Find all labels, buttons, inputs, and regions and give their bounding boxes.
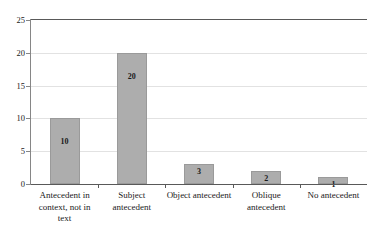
bar-value-label: 20 [117,73,147,81]
x-axis-category-label: No antecedent [300,190,367,202]
y-axis-line [30,19,31,185]
bar-value-label: 3 [184,168,214,176]
x-axis-tick-mark [233,184,234,188]
y-axis-tick-label: 0 [21,180,25,189]
x-axis-category-label: Oblique antecedent [233,190,300,213]
gridline [31,151,367,152]
plot-area: 1020321 [31,20,367,184]
x-axis-tick-mark [98,184,99,188]
x-axis-category-label: Subject antecedent [98,190,165,213]
x-axis-category-label: Antecedent in context, not in text [31,190,98,225]
bar [50,118,80,184]
x-axis-category-label: Object antecedent [165,190,232,202]
x-axis-tick-mark [300,184,301,188]
x-axis-tick-mark [165,184,166,188]
y-axis-tick-label: 10 [17,114,26,123]
bar-value-label: 10 [50,138,80,146]
gridline [31,53,367,54]
y-axis-tick-label: 5 [21,147,25,156]
gridline [31,86,367,87]
y-axis-tick-label: 25 [17,16,26,25]
x-axis-line [31,184,367,185]
y-axis-tick-label: 15 [17,81,26,90]
plot-top-border [31,19,367,20]
bar-value-label: 1 [318,181,348,189]
bar-value-label: 2 [251,175,281,183]
y-axis-tick-label: 20 [17,49,26,58]
gridline [31,118,367,119]
bar-chart: 0510152025 1020321 Antecedent in context… [0,0,380,242]
